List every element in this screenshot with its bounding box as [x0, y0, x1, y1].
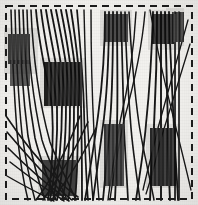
bundle-center — [44, 62, 82, 106]
bundle-left-upper — [8, 34, 30, 64]
line-artwork-svg — [0, 0, 198, 205]
bundle-upper-mid — [104, 14, 128, 42]
bundle-lower-left — [42, 160, 76, 196]
bundle-lower-right — [150, 128, 176, 186]
artwork-canvas: Abstract line-bundle drawing Dense field… — [0, 0, 198, 205]
